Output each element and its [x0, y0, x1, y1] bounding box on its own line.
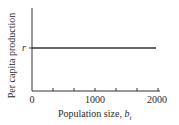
y-tick-label-r: r: [22, 42, 26, 53]
x-axis-label-sub: t: [129, 114, 131, 122]
x-tick-label-0: 0: [30, 94, 35, 105]
x-axis-label: Population size, bt: [58, 108, 131, 122]
x-tick-label-2000: 2000: [147, 94, 167, 105]
x-axis-label-text: Population size,: [58, 108, 124, 119]
x-tick-label-1000: 1000: [85, 94, 105, 105]
y-axis-label: Per capita production: [6, 11, 17, 101]
chart: Per capita production r 0 1000 2000 Popu…: [0, 0, 179, 125]
plot-area: [0, 0, 179, 125]
